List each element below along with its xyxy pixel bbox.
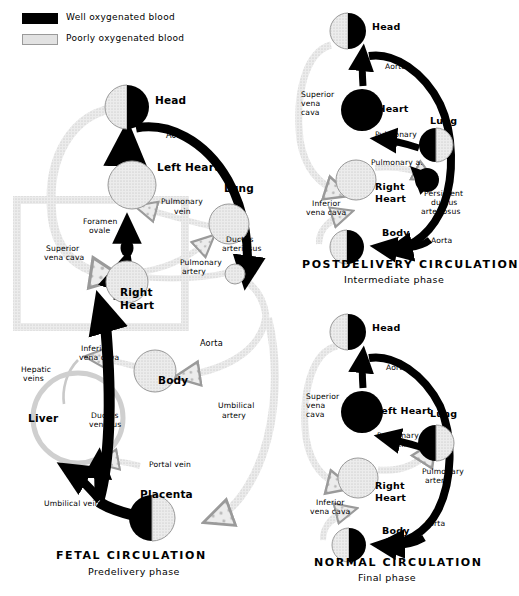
label-fetal-ivc-2: vena cava	[79, 354, 119, 362]
label-fetal-pulmonary-vein-1: Pulmonary	[161, 198, 203, 206]
subcaption-fetal: Predelivery phase	[88, 566, 180, 577]
label-fetal-right-heart-line2: Heart	[120, 300, 154, 311]
label-fetal-placenta: Placenta	[140, 489, 193, 500]
label-normal-pulmonary-vein-1: Pulmonary	[377, 432, 419, 440]
label-post-ivc-1: Inferior	[312, 200, 341, 208]
organ-fetal-head	[105, 85, 149, 129]
structure-fetal-ductus-arteriosus-node	[225, 264, 245, 284]
subcaption-post: Intermediate phase	[344, 274, 444, 285]
label-post-right-heart-line1: Right	[375, 182, 405, 192]
panel-fetal	[17, 85, 275, 541]
label-post-left-heart: Left Heart	[352, 104, 409, 114]
label-normal-svc-2: vena	[306, 402, 325, 410]
label-post-pda-3: arteriosus	[421, 208, 461, 216]
label-fetal-ductus-arteriosus-1: Ductus	[226, 236, 253, 244]
label-post-svc-3: cava	[301, 109, 320, 117]
label-post-svc-1: Superior	[301, 91, 334, 99]
label-post-pulmonary-vein-2: vein	[390, 140, 407, 148]
label-fetal-ductus-venosus-1: Ductus	[91, 412, 118, 420]
label-normal-ivc-2: vena cava	[310, 508, 350, 516]
label-fetal-liver: Liver	[28, 413, 58, 424]
label-fetal-pulmonary-vein-2: vein	[174, 208, 191, 216]
label-normal-head: Head	[372, 323, 400, 333]
vessel-post-superior-vena-cava	[299, 45, 342, 193]
organ-post-head	[330, 13, 366, 49]
label-fetal-pulmonary-artery-1: Pulmonary	[180, 259, 222, 267]
organ-post-lung	[419, 128, 453, 162]
label-post-body: Body	[382, 228, 410, 238]
label-post-aorta-bottom: Aorta	[431, 237, 452, 245]
vessel-fetal-hepatic-veins	[64, 360, 78, 404]
label-normal-aorta-top: Aorta	[386, 364, 407, 372]
caption-fetal: FETAL CIRCULATION	[56, 549, 207, 562]
label-fetal-aorta-bottom: Aorta	[200, 339, 223, 348]
label-fetal-foramen-ovale-1: Foramen	[83, 218, 117, 226]
label-fetal-ductus-venosus-2: venosus	[89, 421, 121, 429]
label-fetal-pulmonary-artery-2: artery	[182, 268, 206, 276]
structure-fetal-foramen-ovale	[121, 239, 134, 257]
label-normal-ivc-1: Inferior	[316, 499, 345, 507]
label-post-aorta-top: Aorta	[385, 63, 406, 71]
label-fetal-foramen-ovale-2: ovale	[89, 227, 110, 235]
caption-normal: NORMAL CIRCULATION	[314, 556, 483, 569]
label-post-pulmonary-a: Pulmonary a.	[371, 159, 423, 167]
label-post-pda-2: ductus	[431, 199, 457, 207]
label-fetal-svc-2: vena cava	[44, 254, 84, 262]
label-post-right-heart-line2: Heart	[375, 194, 406, 204]
label-normal-body: Body	[382, 526, 410, 536]
label-normal-svc-3: cava	[306, 411, 325, 419]
organ-normal-head	[330, 314, 366, 350]
organ-post-right-heart	[336, 160, 376, 200]
label-fetal-aorta-top: Aorta	[166, 131, 189, 140]
label-post-head: Head	[372, 22, 400, 32]
label-fetal-umbilical-artery-1: Umbilical	[218, 402, 254, 410]
fetal-oxygenated-vessels	[66, 127, 247, 516]
organ-normal-right-heart	[338, 458, 378, 498]
label-fetal-hepatic-1: Hepatic	[21, 366, 51, 374]
label-post-pda-1: Persistent	[424, 190, 463, 198]
label-fetal-umbilical-artery-2: artery	[222, 412, 246, 420]
label-fetal-portal-vein: Portal vein	[149, 461, 191, 469]
label-normal-svc-1: Superior	[306, 393, 339, 401]
label-normal-pulmonary-vein-2: vein	[392, 441, 409, 449]
label-normal-aorta-bottom: Aorta	[424, 520, 445, 528]
subcaption-normal: Final phase	[358, 572, 416, 583]
label-post-lung: Lung	[430, 116, 457, 126]
label-post-ivc-2: vena cava	[306, 209, 346, 217]
label-fetal-ivc-1: Inferior	[81, 345, 110, 353]
label-fetal-left-heart: Left Heart	[157, 162, 219, 173]
vessel-post-ascending-aorta	[362, 52, 363, 86]
organ-fetal-placenta	[129, 495, 175, 541]
label-fetal-head: Head	[155, 95, 186, 106]
label-post-pulmonary-vein-1: Pulmonary	[375, 131, 417, 139]
label-fetal-right-heart-line1: Right	[120, 287, 153, 298]
vessel-fetal-ductus-arteriosus	[238, 276, 266, 316]
label-fetal-lung: Lung	[224, 183, 254, 194]
label-fetal-umbilical-vein: Umbilical vein	[44, 500, 100, 508]
label-normal-right-heart-line2: Heart	[375, 493, 406, 503]
caption-post: POSTDELIVERY CIRCULATION	[302, 258, 519, 271]
label-fetal-body: Body	[158, 375, 188, 386]
vessel-normal-ascending-aorta	[362, 354, 363, 388]
label-normal-pulmonary-artery-2: artery	[425, 477, 449, 485]
label-normal-left-heart: Left Heart	[375, 406, 432, 416]
label-normal-right-heart-line1: Right	[375, 481, 405, 491]
label-fetal-ductus-arteriosus-2: arteriosus	[222, 245, 262, 253]
fetal-deoxygenated-vessels	[33, 107, 275, 519]
label-fetal-hepatic-2: veins	[23, 375, 44, 383]
organ-fetal-left-heart	[108, 161, 156, 209]
vessel-fetal-descending-aorta	[183, 316, 266, 376]
label-fetal-svc-1: Superior	[46, 245, 79, 253]
label-normal-lung: Lung	[430, 409, 457, 419]
vessel-fetal-ductus-venosus	[98, 457, 99, 498]
label-post-svc-2: vena	[301, 100, 320, 108]
organ-normal-lung	[418, 425, 454, 461]
label-normal-pulmonary-artery-1: Pulmonary	[422, 468, 464, 476]
